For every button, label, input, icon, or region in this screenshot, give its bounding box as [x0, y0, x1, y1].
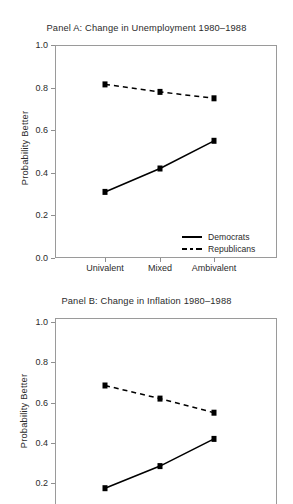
panel-a-xtickmark-mixed: [160, 258, 161, 262]
legend-label-republicans: Republicans: [208, 244, 255, 254]
panel-a-republicans-marker-mixed: [158, 89, 163, 95]
panel-a-xtickmark-univalent: [105, 258, 106, 262]
legend-label-democrats: Democrats: [208, 232, 250, 242]
panel-b-republicans-marker-univalent: [103, 383, 108, 389]
panel-a-democrats-marker-univalent: [103, 189, 108, 195]
panel-a-democrats-marker-ambivalent: [212, 138, 217, 144]
panel-b-democrats-marker-mixed: [158, 463, 163, 469]
legend-item-democrats: Democrats: [182, 231, 255, 243]
panel-a-xtick-ambivalent: Ambivalent: [179, 263, 249, 273]
legend-dashed-line-icon: [182, 244, 202, 254]
legend-solid-line-icon: [182, 232, 202, 242]
panel-a-legend: Democrats Republicans: [182, 231, 255, 255]
panel-a-democrats-marker-mixed: [158, 166, 163, 172]
panel-a-republicans-marker-univalent: [103, 81, 108, 87]
panel-b-republicans-marker-mixed: [158, 396, 163, 402]
panel-b-republicans-marker-ambivalent: [212, 410, 217, 416]
panel-a-xtickmark-ambivalent: [214, 258, 215, 262]
legend-item-republicans: Republicans: [182, 243, 255, 255]
panel-b-democrats-marker-univalent: [103, 485, 108, 491]
panel-a: Panel A: Change in Unemployment 1980–198…: [0, 0, 293, 276]
panel-b-democrats-marker-ambivalent: [212, 436, 217, 442]
panel-b: Panel B: Change in Inflation 1980–1988 P…: [0, 276, 293, 504]
panel-a-republicans-marker-ambivalent: [212, 95, 217, 101]
panel-b-series-layer: [0, 276, 293, 504]
